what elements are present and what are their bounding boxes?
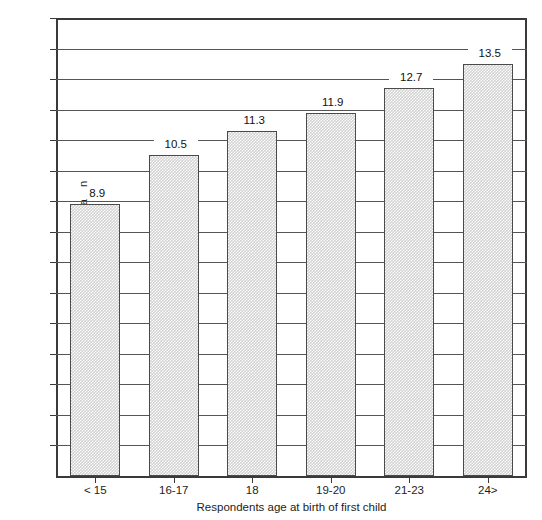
bar-24 [463,64,513,476]
y-tick-mark [50,293,56,294]
y-tick-mark [50,232,56,233]
gridline [56,140,527,141]
gridline [56,171,527,172]
plot-frame-top [56,18,527,20]
y-tick-mark [50,384,56,385]
bar-value-label: 8.9 [75,187,119,199]
plot-frame-right [525,18,527,478]
bar-18 [227,131,277,476]
plot-area [56,18,527,478]
gridline [56,445,527,446]
gridline [56,293,527,294]
bar-value-label: 10.5 [154,138,198,150]
x-tick-label: 21-23 [369,484,449,496]
gridline [56,262,527,263]
x-tick-mark [95,478,96,483]
bar-2123 [384,88,434,476]
y-tick-mark [50,201,56,202]
y-axis-line [56,18,58,478]
y-tick-mark [50,171,56,172]
bar-chart: Average years of education 1234567891011… [0,0,542,520]
x-tick-label: 19-20 [291,484,371,496]
gridline [56,79,527,80]
x-axis-title: Respondents age at birth of first child [56,501,527,513]
bar-15 [70,204,120,476]
gridline [56,49,527,50]
y-tick-mark [50,262,56,263]
x-tick-mark [252,478,253,483]
x-tick-label: 18 [212,484,292,496]
x-tick-label: < 15 [55,484,135,496]
y-tick-mark [50,354,56,355]
x-tick-label: 24> [448,484,528,496]
gridline [56,110,527,111]
gridline [56,201,527,202]
gridline [56,354,527,355]
x-tick-mark [409,478,410,483]
gridline [56,323,527,324]
y-tick-mark [50,140,56,141]
y-tick-mark [50,79,56,80]
bar-value-label: 12.7 [389,71,433,83]
x-axis-line [56,476,527,478]
y-tick-mark [50,110,56,111]
y-tick-mark [50,445,56,446]
y-tick-mark [50,18,56,19]
bar-value-label: 13.5 [468,47,512,59]
gridline [56,232,527,233]
y-tick-mark [50,323,56,324]
x-tick-mark [488,478,489,483]
x-tick-label: 16-17 [134,484,214,496]
bar-value-label: 11.3 [232,114,276,126]
bar-value-label: 11.9 [311,96,355,108]
gridline [56,415,527,416]
bar-1920 [306,113,356,476]
x-tick-mark [174,478,175,483]
bar-1617 [149,155,199,476]
gridline [56,384,527,385]
y-tick-mark [50,415,56,416]
y-tick-mark [50,49,56,50]
x-tick-mark [331,478,332,483]
